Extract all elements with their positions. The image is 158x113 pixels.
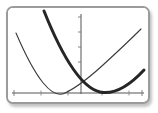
screenshot-root [0,0,158,113]
plot-background [8,8,148,102]
parabola-plot [8,8,148,102]
graph-calculator-frame [6,6,150,104]
plot-area[interactable] [8,8,148,102]
